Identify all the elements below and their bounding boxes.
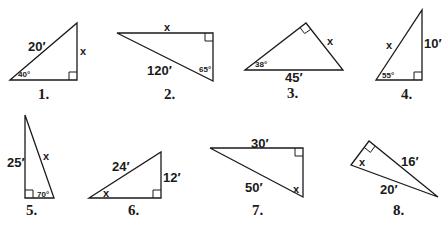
problem-number-2: 2.	[164, 87, 175, 102]
right-triangle-worksheet: 20′ x 40° 1. x 120′ 65° 2. x 38° 45′ 3. …	[0, 0, 448, 226]
side-label-x-5: x	[43, 151, 49, 162]
right-angle-marker-6	[153, 190, 161, 198]
problem-number-3: 3.	[287, 86, 298, 101]
right-angle-marker-2	[205, 33, 213, 41]
problem-number-8: 8.	[393, 203, 404, 218]
side-label-opposite-6: 12′	[163, 171, 181, 184]
side-label-hypotenuse-6: 24′	[112, 160, 130, 173]
side-label-hypotenuse-2: 120′	[147, 64, 172, 77]
triangle-5	[25, 115, 54, 198]
right-angle-marker-5	[25, 190, 33, 198]
angle-label-x-8: x	[359, 157, 365, 168]
side-label-x-3: x	[327, 36, 333, 47]
triangle-4	[376, 10, 422, 80]
right-angle-marker-7	[295, 148, 303, 156]
side-label-x-2: x	[164, 22, 170, 33]
side-label-hypotenuse-8: 20′	[380, 183, 398, 196]
side-label-leg-8: 16′	[401, 155, 419, 168]
angle-label-5: 70°	[37, 191, 49, 199]
angle-label-2: 65°	[199, 66, 211, 74]
right-angle-marker-1	[69, 72, 77, 80]
side-label-top-7: 30′	[251, 137, 269, 150]
problem-number-5: 5.	[26, 203, 37, 218]
problem-number-1: 1.	[38, 87, 49, 102]
problem-number-7: 7.	[252, 203, 263, 218]
side-label-opposite-4: 10′	[424, 37, 442, 50]
problem-number-6: 6.	[128, 203, 139, 218]
side-label-hypotenuse-1: 20′	[28, 40, 46, 53]
side-label-x-4: x	[386, 40, 392, 51]
side-label-hypotenuse-7: 50′	[245, 181, 263, 194]
right-angle-marker-4	[414, 72, 422, 80]
angle-label-x-6: x	[103, 188, 109, 199]
angle-label-3: 38°	[255, 61, 267, 69]
side-label-leg-5: 25′	[7, 156, 25, 169]
angle-label-1: 40°	[18, 71, 30, 79]
right-angle-marker-8	[364, 146, 375, 152]
side-label-x-1: x	[80, 46, 86, 57]
angle-label-4: 55°	[382, 72, 394, 80]
side-label-hypotenuse-3: 45′	[285, 71, 303, 84]
angle-label-x-7: x	[293, 184, 299, 195]
problem-number-4: 4.	[401, 87, 412, 102]
right-angle-marker-3	[300, 28, 311, 34]
